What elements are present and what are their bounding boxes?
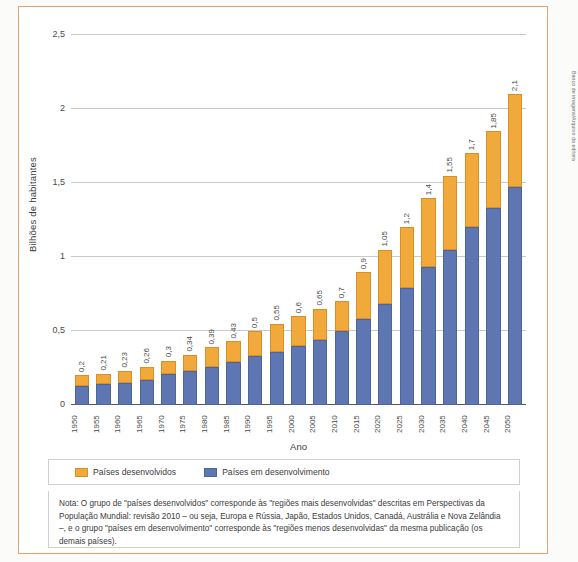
x-tick-label: 1950 [71,407,93,441]
bar-column: 1,2 [397,35,416,405]
bar-segment-developed [465,153,479,227]
bar-value-label: 0,21 [100,355,108,371]
bar-column: 0,65 [311,35,330,405]
legend-item: Países em desenvolvimento [204,467,329,477]
x-tick-label: 1990 [244,407,266,441]
bar-segment-developed [421,198,435,268]
y-tick-label: 0,5 [52,325,65,335]
bar-value-label: 1,7 [468,139,476,150]
bar-value-label: 1,55 [446,157,454,173]
bar-value-label: 0,5 [251,317,259,328]
bar-segment-developing [140,380,154,405]
bar-column: 0,39 [202,35,221,405]
bar-segment-developing [486,208,500,405]
bar-segment-developing [335,331,349,405]
x-tick-label: 1995 [266,407,288,441]
legend-swatch [75,468,88,477]
stacked-bar: 2,1 [508,94,522,405]
bar-value-label: 0,23 [121,352,129,368]
x-tick-label: 2030 [418,407,440,441]
bar-segment-developing [378,304,392,405]
bar-segment-developing [248,356,262,405]
stacked-bar: 0,26 [140,367,154,405]
bar-segment-developed [183,355,197,371]
figure-page: Banco de imagens/Arquivo da editora Bilh… [0,0,578,562]
stacked-bar: 0,3 [161,361,175,405]
bar-segment-developing [183,371,197,405]
stacked-bar: 1,05 [378,250,392,405]
bar-segment-developed [313,309,327,340]
bar-segment-developing [421,267,435,405]
stacked-bar: 1,85 [486,131,500,405]
bar-column: 1,55 [441,35,460,405]
bar-segment-developing [226,362,240,405]
bar-segment-developed [291,316,305,346]
legend-item: Países desenvolvidos [75,467,176,477]
bar-segment-developing [400,288,414,405]
y-tick-label: 1 [60,251,65,261]
legend-label: Países desenvolvidos [93,467,176,477]
bar-segment-developed [270,324,284,352]
stacked-bar: 1,2 [400,227,414,405]
bar-segment-developed [205,347,219,366]
bar-segment-developing [465,227,479,405]
x-axis-label: Ano [71,441,526,452]
bar-column: 0,55 [267,35,286,405]
x-tick-label: 2050 [504,407,526,441]
stacked-bar: 0,7 [335,301,349,405]
bar-column: 2,1 [506,35,525,405]
x-tick-label: 1955 [93,407,115,441]
bar-column: 1,4 [419,35,438,405]
stacked-bar: 0,34 [183,355,197,405]
stacked-bar: 1,7 [465,153,479,405]
x-tick-label: 1960 [114,407,136,441]
bar-segment-developing [313,340,327,405]
y-tick-label: 0 [60,399,65,409]
stacked-bar: 0,5 [248,331,262,405]
bar-value-label: 0,55 [273,305,281,321]
stacked-bar: 1,55 [443,176,457,405]
bar-value-label: 0,39 [208,329,216,345]
y-tick-label: 2,5 [52,29,65,39]
x-tick-label: 1985 [223,407,245,441]
stacked-bar: 0,21 [96,374,110,405]
chart-legend: Países desenvolvidosPaíses em desenvolvi… [48,459,520,485]
y-axis-label: Bilhões de habitantes [27,157,38,252]
stacked-bar: 0,9 [356,272,370,405]
bar-segment-developing [291,346,305,405]
bar-segment-developed [140,367,154,380]
bar-value-label: 1,2 [403,213,411,224]
figure-frame: Bilhões de habitantes 00,511,522,5 0,20,… [18,6,548,554]
legend-label: Países em desenvolvimento [222,467,329,477]
bar-value-label: 0,7 [338,287,346,298]
bar-value-label: 1,85 [490,113,498,129]
bar-segment-developing [356,319,370,405]
bar-column: 0,7 [332,35,351,405]
stacked-bar: 0,23 [118,371,132,405]
bar-segment-developed [486,131,500,208]
bar-value-label: 1,05 [381,231,389,247]
bar-segment-developing [508,187,522,405]
x-tick-label: 1975 [179,407,201,441]
y-tick-label: 2 [60,103,65,113]
bar-segment-developed [226,341,240,362]
bar-value-label: 0,6 [295,302,303,313]
bar-value-label: 0,2 [78,361,86,372]
x-tick-label: 2025 [396,407,418,441]
bar-segment-developing [443,250,457,405]
bar-column: 0,5 [246,35,265,405]
stacked-bar: 1,4 [421,198,435,405]
bar-segment-developing [96,384,110,405]
x-tick-label: 2020 [374,407,396,441]
bar-segment-developed [118,371,132,383]
bar-segment-developed [75,375,89,385]
x-tick-label: 2005 [309,407,331,441]
bar-column: 0,6 [289,35,308,405]
bar-value-label: 0,43 [230,323,238,339]
bar-segment-developed [443,176,457,250]
bar-column: 0,43 [224,35,243,405]
bar-series: 0,20,210,230,260,30,340,390,430,50,550,6… [71,35,526,405]
x-tick-label: 1970 [158,407,180,441]
bar-segment-developed [356,272,370,319]
stacked-bar: 0,55 [270,324,284,405]
